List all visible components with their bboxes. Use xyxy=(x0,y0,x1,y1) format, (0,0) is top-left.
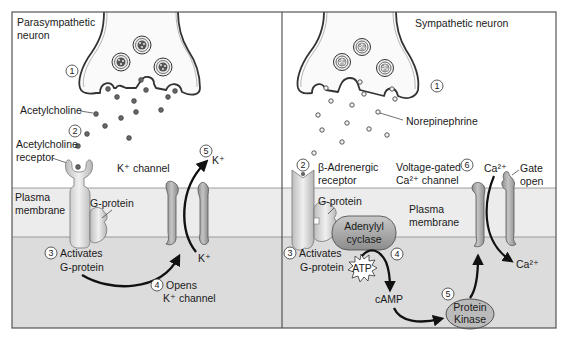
svg-text:3: 3 xyxy=(287,248,292,258)
svg-text:Protein: Protein xyxy=(453,301,486,313)
label-ca-ion-top: Ca²⁺ xyxy=(484,162,507,174)
label-plasma-membrane-2: membrane xyxy=(15,204,65,216)
label-activates: Activates xyxy=(299,247,342,259)
svg-text:4: 4 xyxy=(154,280,159,290)
step-3-marker: 3 xyxy=(45,247,57,259)
panel-parasympathetic: 1 Parasympathetic neuron Acetylcholine 2… xyxy=(12,12,282,328)
synaptic-vesicle xyxy=(154,58,172,76)
g-protein xyxy=(90,208,107,243)
panel-sympathetic: Sympathetic neuron 1 Norepinephrine 2 β-… xyxy=(282,12,556,329)
label-plasma-membrane: Plasma xyxy=(15,191,50,203)
svg-text:2: 2 xyxy=(300,160,305,170)
label-k-ion-out: K⁺ xyxy=(212,154,225,166)
synaptic-vesicle xyxy=(112,53,130,71)
label-plasma-membrane: Plasma xyxy=(409,203,444,215)
svg-text:5: 5 xyxy=(445,289,450,299)
synaptic-vesicle xyxy=(334,54,351,71)
label-voltage-gated-2: Ca²⁺ channel xyxy=(396,174,459,186)
label-beta-adrenergic-2: receptor xyxy=(318,174,357,186)
step-2-marker: 2 xyxy=(297,159,309,171)
svg-text:cyclase: cyclase xyxy=(346,233,381,245)
label-beta-adrenergic: β-Adrenergic xyxy=(318,161,378,173)
synaptic-vesicle xyxy=(377,60,394,77)
svg-text:3: 3 xyxy=(48,248,53,258)
label-opens: Opens xyxy=(166,279,197,291)
svg-text:ATP: ATP xyxy=(352,262,372,274)
label-acetylcholine-receptor-2: receptor xyxy=(16,151,55,163)
step-2-marker: 2 xyxy=(69,125,81,137)
label-plasma-membrane-2: membrane xyxy=(409,216,459,228)
svg-text:Adenylyl: Adenylyl xyxy=(344,220,384,232)
synaptic-vesicle xyxy=(354,39,371,56)
step-5-marker: 5 xyxy=(200,145,212,157)
svg-text:Kinase: Kinase xyxy=(454,313,486,325)
label-norepinephrine: Norepinephrine xyxy=(406,115,478,127)
beta-adrenergic-receptor xyxy=(292,170,314,250)
label-g-protein: G-protein xyxy=(318,195,362,207)
label-activates: Activates xyxy=(60,247,103,259)
label-activates-2: G-protein xyxy=(60,261,104,273)
adenylyl-cyclase: Adenylyl cyclase xyxy=(332,216,396,250)
label-voltage-gated: Voltage-gated xyxy=(396,161,461,173)
label-k-ion-in: K⁺ xyxy=(198,252,211,264)
svg-text:6: 6 xyxy=(464,160,469,170)
title-parasympathetic: Parasympathetic xyxy=(17,16,95,28)
label-gate: Gate xyxy=(520,162,543,174)
step-1-marker: 1 xyxy=(431,80,443,92)
protein-kinase: Protein Kinase xyxy=(446,299,494,329)
svg-text:1: 1 xyxy=(69,66,74,76)
label-acetylcholine-receptor: Acetylcholine xyxy=(16,138,78,150)
label-gate-2: open xyxy=(520,175,544,187)
step-6-marker: 6 xyxy=(461,159,473,171)
step-5-marker: 5 xyxy=(442,288,454,300)
svg-text:5: 5 xyxy=(203,146,208,156)
title-sympathetic: Sympathetic neuron xyxy=(415,17,509,29)
step-3-marker: 3 xyxy=(284,247,296,259)
svg-text:1: 1 xyxy=(434,81,439,91)
label-g-protein: G-protein xyxy=(90,197,134,209)
label-opens-2: K⁺ channel xyxy=(163,292,216,304)
label-acetylcholine: Acetylcholine xyxy=(20,104,82,116)
step-4-marker: 4 xyxy=(391,248,403,260)
step-1-marker: 1 xyxy=(66,65,78,77)
label-activates-2: G-protein xyxy=(300,261,344,273)
svg-text:2: 2 xyxy=(72,126,77,136)
svg-text:4: 4 xyxy=(394,249,399,259)
step-4-marker: 4 xyxy=(151,279,163,291)
label-ca-ion-bottom: Ca²⁺ xyxy=(516,258,539,270)
title-parasympathetic-2: neuron xyxy=(17,29,50,41)
synaptic-vesicle xyxy=(133,36,151,54)
label-k-channel: K⁺ channel xyxy=(117,162,170,174)
diagram-canvas: 1 Parasympathetic neuron Acetylcholine 2… xyxy=(0,0,564,338)
label-camp: cAMP xyxy=(375,293,403,305)
